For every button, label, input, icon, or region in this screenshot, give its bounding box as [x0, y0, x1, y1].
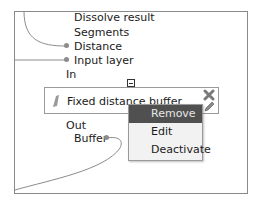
output-port-buffer[interactable] — [104, 135, 109, 140]
input-label-input-layer: Input layer — [74, 54, 134, 67]
input-label-distance: Distance — [74, 40, 122, 53]
edit-pencil-icon[interactable] — [203, 101, 215, 113]
menu-item-edit[interactable]: Edit — [129, 123, 202, 141]
input-port-distance[interactable] — [64, 43, 69, 48]
context-menu: Remove Edit Deactivate — [128, 104, 203, 161]
out-label: Out — [66, 119, 86, 132]
in-label: In — [66, 68, 76, 81]
input-port-input-layer[interactable] — [64, 57, 69, 62]
menu-item-remove[interactable]: Remove — [129, 105, 202, 123]
collapse-inputs-icon[interactable] — [127, 79, 135, 87]
menu-item-deactivate[interactable]: Deactivate — [129, 141, 202, 159]
input-label-dissolve-result: Dissolve result — [74, 11, 155, 24]
algorithm-icon — [51, 94, 61, 108]
output-label-buffer: Buffer — [74, 132, 107, 145]
remove-x-icon[interactable] — [203, 89, 215, 101]
input-label-segments: Segments — [74, 26, 129, 39]
